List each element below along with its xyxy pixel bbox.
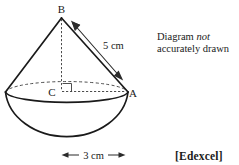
slant-height-label: 5 cm [103,40,124,51]
figure-canvas: B C A 5 cm 3 cm Diagram not accurately d… [0,0,239,165]
not-to-scale-note: Diagram not accurately drawn [157,31,230,54]
cone-slant-left [6,18,62,92]
point-label-b: B [58,3,65,15]
geometry-figure: B C A 5 cm 3 cm Diagram not accurately d… [0,0,239,165]
note-line-1-emphasis: not [196,31,211,42]
source-attribution: [Edexcel] [175,150,223,162]
right-angle-marker [63,84,72,92]
note-line-1: Diagram not [157,31,211,42]
base-rim-front [6,92,129,102]
cone-slant-right [62,18,129,92]
base-radius-label: 3 cm [83,150,104,161]
point-label-c: C [48,86,55,98]
note-line-2: accurately drawn [157,43,230,54]
point-label-a: A [129,87,137,99]
note-line-1-prefix: Diagram [157,31,196,42]
